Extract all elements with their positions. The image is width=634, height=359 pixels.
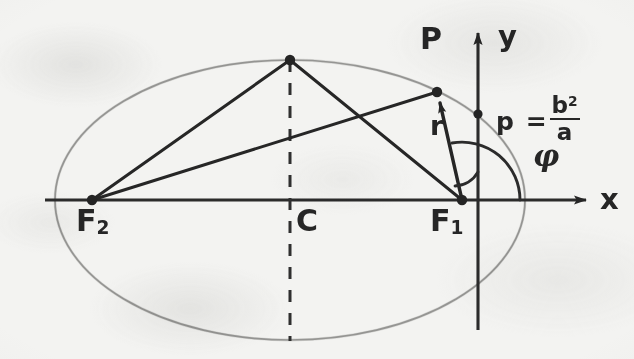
label-radius-r-text: r bbox=[430, 110, 443, 141]
label-center-c-text: C bbox=[296, 203, 318, 238]
segment-f2-p bbox=[92, 92, 437, 200]
label-x-axis: x bbox=[600, 185, 619, 214]
label-focus-2: F2 bbox=[76, 206, 109, 238]
formula-numerator-exponent: 2 bbox=[568, 93, 578, 109]
label-y-axis: y bbox=[498, 22, 517, 51]
label-angle-phi-text: φ bbox=[533, 139, 559, 173]
label-y-axis-text: y bbox=[498, 19, 517, 53]
construction-segments bbox=[92, 60, 462, 200]
marker-top-vertex bbox=[285, 55, 295, 65]
formula-fraction: b2a bbox=[550, 94, 580, 144]
label-focus-1-subscript: 1 bbox=[451, 217, 464, 238]
marker-point-p bbox=[432, 87, 442, 97]
formula-numerator-wrap: b2 bbox=[550, 94, 580, 120]
marker-f1 bbox=[457, 195, 467, 205]
label-focus-2-subscript: 2 bbox=[97, 217, 110, 238]
label-focus-1-base: F bbox=[430, 203, 451, 238]
diagram-canvas bbox=[0, 0, 634, 359]
formula-equals: = bbox=[526, 107, 547, 136]
label-angle-phi: φ bbox=[533, 142, 559, 171]
formula-lhs: p bbox=[496, 107, 514, 136]
label-center-c: C bbox=[296, 206, 318, 236]
formula-denominator: a bbox=[550, 120, 580, 144]
formula-numerator: b bbox=[552, 92, 568, 118]
label-point-p-text: P bbox=[420, 21, 442, 56]
label-focus-1: F1 bbox=[430, 206, 463, 238]
label-semi-latus-rectum-formula: p =b2a bbox=[496, 94, 580, 144]
label-x-axis-text: x bbox=[600, 182, 619, 216]
label-focus-2-base: F bbox=[76, 203, 97, 238]
segment-f2-b bbox=[92, 60, 290, 200]
ellipse-diagram-figure: F2 C F1 P r φ x y p =b2a bbox=[0, 0, 634, 359]
marker-semi-latus-p bbox=[473, 109, 482, 118]
label-radius-r: r bbox=[430, 112, 443, 139]
label-point-p: P bbox=[420, 24, 442, 54]
